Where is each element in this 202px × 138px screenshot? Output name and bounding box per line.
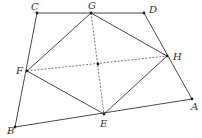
solid-segments <box>15 13 192 127</box>
point-O <box>97 63 100 66</box>
point-A <box>191 98 194 101</box>
label-H: H <box>172 51 182 62</box>
label-A: A <box>190 101 198 112</box>
label-D: D <box>148 4 157 15</box>
label-F: F <box>15 65 24 76</box>
point-D <box>143 12 146 15</box>
label-G: G <box>88 0 96 11</box>
geometry-diagram: C G D F H E A B <box>0 0 202 138</box>
label-B: B <box>6 125 14 136</box>
point-H <box>166 55 169 58</box>
label-E: E <box>99 118 108 129</box>
segment-EH <box>104 56 167 114</box>
point-G <box>90 12 93 15</box>
label-C: C <box>31 1 39 12</box>
segment-GF <box>27 13 91 71</box>
segment-FE <box>27 71 104 114</box>
point-F <box>26 70 29 73</box>
point-C <box>36 12 39 15</box>
point-labels: C G D F H E A B <box>6 0 198 136</box>
point-E <box>103 113 106 116</box>
